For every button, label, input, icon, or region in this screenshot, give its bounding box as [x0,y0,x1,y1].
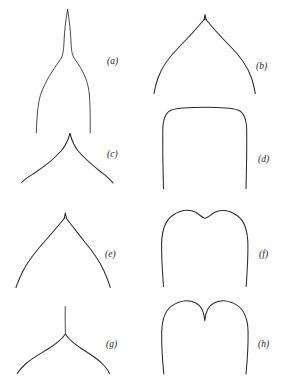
shape-e-acute-apex [16,213,110,288]
panel-label-h: (h) [258,340,269,350]
shape-c-left-outline [22,134,71,183]
shape-a-right-outline [68,10,91,134]
shape-g-left-outline [17,335,65,374]
figure-container: (a) (b) (c) (d) (e) (f) (g) (h) [0,0,287,381]
panel-label-e: (e) [105,250,116,260]
shape-d-truncate-apex [163,107,247,188]
shape-h-outline [162,301,248,374]
panel-label-d: (d) [258,155,269,165]
shape-h-emarginate-apex [162,301,248,374]
shape-b-broad-acute-apex [154,15,255,94]
shape-c-acuminate-apex [22,134,114,184]
shape-a-left-outline [36,10,67,134]
panel-label-c: (c) [107,150,118,160]
shape-b-left-outline [154,19,205,94]
shape-e-left-outline [16,218,65,288]
shape-g-aristate-apex [17,307,109,374]
shape-b-right-outline [206,19,256,94]
shape-a-long-attenuate-apex [36,10,90,134]
shape-e-right-outline [66,218,110,288]
panel-label-g: (g) [106,340,117,350]
panel-label-f: (f) [259,250,268,260]
shape-d-outline [163,107,247,188]
panel-label-a: (a) [107,57,118,67]
shape-f-retuse-apex [162,210,248,286]
shape-g-right-outline [66,335,110,374]
shape-f-outline [162,210,248,286]
apex-shapes-svg [0,0,287,381]
panel-label-b: (b) [256,62,267,72]
